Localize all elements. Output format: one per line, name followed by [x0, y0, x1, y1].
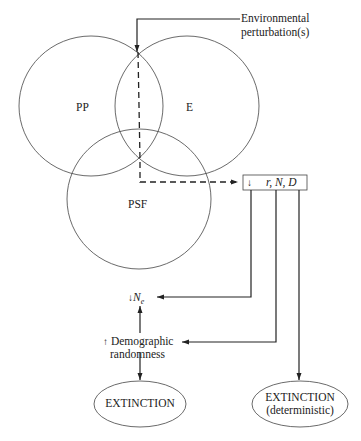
- line-to-ne: [157, 190, 251, 297]
- up-arrow-icon: ↑: [103, 336, 108, 347]
- perturbation-line: [137, 19, 240, 52]
- perturbation-label-line1: Environmental: [241, 12, 309, 25]
- circle-label-pp: PP: [76, 101, 89, 114]
- line-to-demographic: [182, 190, 276, 342]
- circle-label-e: E: [186, 101, 193, 114]
- down-arrow-icon: ↓: [247, 176, 252, 189]
- demographic-label-line2: randomness: [110, 348, 165, 361]
- demographic-label-line1: ↑ Demographic: [103, 335, 173, 348]
- circle-pp: [19, 36, 163, 176]
- ne-subscript: e: [141, 297, 145, 306]
- diagram-canvas: [0, 0, 361, 441]
- demographic-text: Demographic: [111, 335, 174, 347]
- extinction-right-label-line1: EXTINCTION: [252, 391, 348, 404]
- extinction-right-label-line2: (deterministic): [252, 404, 348, 417]
- perturbation-label-line2: perturbation(s): [241, 26, 309, 39]
- circle-label-psf: PSF: [128, 198, 147, 211]
- ne-label: ↓Ne: [128, 291, 144, 308]
- ne-text: N: [133, 291, 141, 303]
- box-label: r, N, D: [266, 176, 297, 189]
- extinction-left-label: EXTINCTION: [94, 397, 186, 410]
- dashed-path: [138, 52, 238, 182]
